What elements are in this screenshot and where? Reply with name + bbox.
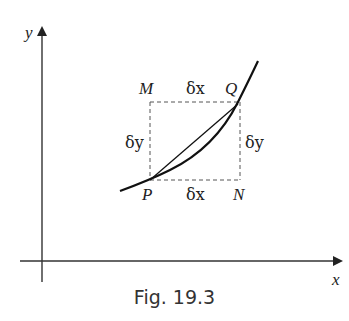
delta-x-bottom-label: δx	[186, 185, 205, 204]
diagram-canvas: y x M Q P N δx δx δy δy	[0, 0, 349, 321]
point-label-q: Q	[225, 79, 237, 98]
delta-x-top-label: δx	[186, 79, 205, 98]
point-label-p: P	[141, 185, 152, 204]
figure-caption: Fig. 19.3	[0, 286, 349, 308]
point-label-n: N	[232, 185, 246, 204]
point-label-m: M	[138, 79, 154, 98]
delta-y-left-label: δy	[125, 133, 144, 152]
chord-pq	[150, 104, 238, 180]
y-axis-label: y	[23, 23, 33, 42]
delta-y-right-label: δy	[245, 133, 264, 152]
